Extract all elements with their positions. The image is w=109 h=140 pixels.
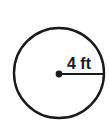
circle-diagram: 4 ft — [0, 0, 109, 140]
circle-diagram-canvas: 4 ft — [0, 0, 109, 140]
diagram-background — [0, 0, 109, 140]
radius-label: 4 ft — [67, 55, 92, 72]
center-point-dot — [56, 71, 63, 78]
